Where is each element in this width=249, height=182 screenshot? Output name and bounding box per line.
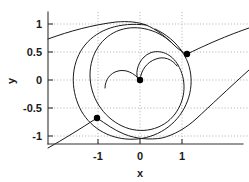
marker-upper-right-point [184, 51, 190, 57]
x-tick-label-0: 0 [137, 150, 143, 162]
axis-layer [48, 12, 243, 144]
x-tick-label-1: 1 [179, 150, 185, 162]
y-tick-label-0: 0 [36, 74, 42, 86]
spiral-small-tail [140, 58, 177, 80]
trajectory-outer-upper [48, 22, 249, 54]
marker-lower-left-point [94, 115, 100, 121]
grid-layer [48, 12, 249, 144]
phase-portrait-figure: 1 0.5 0 -0.5 -1 -1 0 1 x y [0, 0, 249, 182]
y-tick-label-0.5: 0.5 [27, 46, 42, 58]
marker-origin-equilibrium [137, 77, 143, 83]
y-tick-label-1: 1 [36, 18, 42, 30]
y-tick-label--1: -1 [32, 130, 42, 142]
y-tick-label--0.5: -0.5 [23, 102, 42, 114]
plot-svg: 1 0.5 0 -0.5 -1 -1 0 1 x y [0, 0, 249, 182]
tick-layer [48, 24, 182, 144]
trajectory-layer [48, 22, 249, 148]
y-axis-title: y [5, 77, 17, 84]
x-axis-title: x [137, 167, 144, 179]
x-tick-label--1: -1 [93, 150, 103, 162]
